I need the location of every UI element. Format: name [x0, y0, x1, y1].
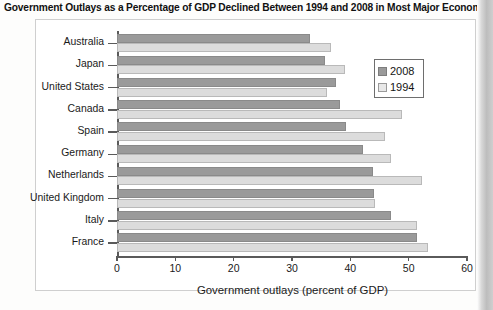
bar-united-states-1994 — [117, 88, 327, 97]
legend-label-1994: 1994 — [390, 82, 414, 93]
bar-japan-2008 — [117, 56, 325, 65]
x-tick — [291, 256, 292, 261]
x-tick-label: 40 — [335, 262, 365, 274]
chart-legend: 2008 1994 — [374, 59, 424, 98]
x-tick — [466, 256, 467, 261]
y-label-united-kingdom: United Kingdom — [0, 192, 104, 203]
bar-canada-1994 — [117, 110, 402, 119]
y-tick — [108, 131, 117, 132]
y-tick — [108, 109, 117, 110]
y-tick — [108, 43, 117, 44]
bar-united-kingdom-1994 — [117, 199, 375, 208]
bar-united-states-2008 — [117, 78, 336, 87]
y-label-united-states: United States — [0, 81, 104, 92]
y-label-france: France — [0, 236, 104, 247]
y-label-germany: Germany — [0, 147, 104, 158]
bar-australia-1994 — [117, 43, 331, 52]
bar-netherlands-1994 — [117, 176, 422, 185]
x-tick-label: 30 — [277, 262, 307, 274]
legend-swatch-1994-icon — [378, 83, 387, 92]
y-label-canada: Canada — [0, 103, 104, 114]
legend-item-2008: 2008 — [378, 63, 423, 79]
bar-united-kingdom-2008 — [117, 189, 374, 198]
y-label-italy: Italy — [0, 214, 104, 225]
bar-germany-1994 — [117, 154, 391, 163]
legend-swatch-2008-icon — [378, 67, 387, 76]
plot-area: AustraliaJapanUnited StatesCanadaSpainGe… — [0, 0, 493, 310]
bar-netherlands-2008 — [117, 167, 373, 176]
bar-france-1994 — [117, 243, 428, 252]
y-tick — [108, 87, 117, 88]
x-tick-label: 20 — [219, 262, 249, 274]
x-tick-label: 0 — [102, 262, 132, 274]
bar-france-2008 — [117, 233, 417, 242]
y-label-australia: Australia — [0, 36, 104, 47]
x-tick-label: 10 — [160, 262, 190, 274]
bar-spain-2008 — [117, 122, 346, 131]
x-tick — [350, 256, 351, 261]
y-label-netherlands: Netherlands — [0, 169, 104, 180]
bar-italy-1994 — [117, 221, 417, 230]
y-tick — [108, 154, 117, 155]
x-tick — [233, 256, 234, 261]
x-tick-label: 50 — [394, 262, 424, 274]
bar-australia-2008 — [117, 34, 310, 43]
y-tick — [108, 242, 117, 243]
bar-italy-2008 — [117, 211, 391, 220]
y-tick — [108, 65, 117, 66]
legend-label-2008: 2008 — [390, 66, 414, 77]
chart-figure: Government Outlays as a Percentage of GD… — [0, 0, 493, 310]
legend-item-1994: 1994 — [378, 79, 423, 95]
x-axis-title: Government outlays (percent of GDP) — [117, 284, 468, 296]
y-tick — [108, 220, 117, 221]
x-tick — [116, 256, 117, 261]
bar-canada-2008 — [117, 100, 340, 109]
y-tick — [108, 198, 117, 199]
y-tick — [108, 176, 117, 177]
bar-japan-1994 — [117, 65, 345, 74]
x-tick — [175, 256, 176, 261]
y-label-japan: Japan — [0, 58, 104, 69]
page-edge-artifact — [477, 0, 493, 310]
bar-germany-2008 — [117, 145, 363, 154]
bar-spain-1994 — [117, 132, 385, 141]
x-tick — [408, 256, 409, 261]
y-label-spain: Spain — [0, 125, 104, 136]
